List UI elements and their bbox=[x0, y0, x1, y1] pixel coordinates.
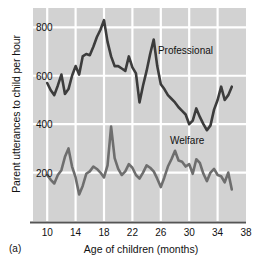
y-tick-label: 400 bbox=[36, 119, 53, 130]
y-tick-label: 800 bbox=[36, 22, 53, 33]
x-axis-title: Age of children (months) bbox=[34, 243, 248, 255]
x-tick-label: 22 bbox=[127, 227, 139, 238]
series-label-professional: Professional bbox=[158, 45, 213, 56]
x-tick-label: 14 bbox=[70, 227, 82, 238]
series-label-welfare: Welfare bbox=[170, 135, 205, 146]
chart-figure: Parent utterances to child per hour 2004… bbox=[0, 0, 254, 263]
x-tick-label: 26 bbox=[155, 227, 167, 238]
y-tick-label: 200 bbox=[36, 168, 53, 179]
x-tick-label: 18 bbox=[98, 227, 110, 238]
y-tick-label: 600 bbox=[36, 71, 53, 82]
x-tick-label: 34 bbox=[212, 227, 224, 238]
line-chart-plot: 2004006008001014182226303438Professional… bbox=[0, 0, 254, 263]
panel-label: (a) bbox=[9, 243, 21, 254]
x-tick-label: 38 bbox=[240, 227, 252, 238]
x-tick-label: 30 bbox=[184, 227, 196, 238]
x-tick-label: 10 bbox=[42, 227, 54, 238]
